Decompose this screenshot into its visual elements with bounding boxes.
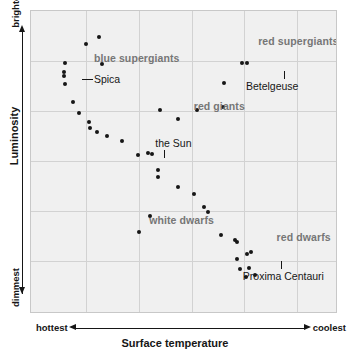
star-point xyxy=(158,108,162,112)
star-point xyxy=(202,205,206,209)
x-axis-arrow-right-icon xyxy=(304,324,311,330)
star-point xyxy=(63,61,67,65)
region-label-white-dwarfs: white dwarfs xyxy=(149,214,214,226)
y-axis: brightest dimmest Luminosity xyxy=(0,10,30,313)
y-axis-label-dimmest: dimmest xyxy=(10,259,21,317)
region-label-red-supergiants: red supergiants xyxy=(258,35,337,47)
x-axis-label-hottest: hottest xyxy=(36,322,68,333)
region-label-red-giants: red giants xyxy=(194,100,245,112)
star-point xyxy=(249,250,253,254)
star-point xyxy=(95,130,99,134)
leader-line-betelgeuse xyxy=(284,71,285,79)
x-axis-title: Surface temperature xyxy=(0,337,350,349)
y-axis-title: Luminosity xyxy=(8,76,20,196)
star-label-betelgeuse: Betelgeuse xyxy=(246,80,299,92)
star-point xyxy=(88,126,92,130)
gridline-horizontal-0 xyxy=(31,61,336,62)
region-label-red-dwarfs: red dwarfs xyxy=(277,231,331,243)
star-point xyxy=(84,42,88,46)
star-point xyxy=(136,153,140,157)
star-point xyxy=(222,81,226,85)
star-point xyxy=(192,192,196,196)
region-label-blue-supergiants: blue supergiants xyxy=(94,52,180,64)
gridline-horizontal-4 xyxy=(31,261,336,262)
star-point xyxy=(235,240,239,244)
x-axis: hottest coolest Surface temperature xyxy=(0,313,350,351)
star-point xyxy=(240,61,244,65)
star-point xyxy=(62,74,66,78)
star-point xyxy=(156,175,160,179)
x-axis-label-coolest: coolest xyxy=(313,322,346,333)
star-point xyxy=(137,230,141,234)
star-point xyxy=(238,267,242,271)
leader-line-spica xyxy=(82,79,93,80)
star-point xyxy=(176,185,180,189)
y-axis-label-brightest: brightest xyxy=(10,0,21,38)
star-point xyxy=(156,168,160,172)
plot-area: blue supergiantsred supergiantsred giant… xyxy=(30,10,337,313)
star-point xyxy=(219,233,223,237)
x-axis-arrow-left-icon xyxy=(69,324,76,330)
star-point xyxy=(150,152,154,156)
hr-diagram-figure: brightest dimmest Luminosity blue superg… xyxy=(0,0,350,351)
star-point xyxy=(63,82,67,86)
star-point xyxy=(245,61,249,65)
star-point xyxy=(120,139,124,143)
star-point xyxy=(97,35,101,39)
star-point xyxy=(77,111,81,115)
star-point xyxy=(235,257,239,261)
star-label-proxima-centauri: Proxima Centauri xyxy=(243,270,324,282)
leader-line-proxima-centauri xyxy=(281,261,282,269)
star-point xyxy=(87,120,91,124)
gridline-horizontal-2 xyxy=(31,161,336,162)
leader-line-the-sun xyxy=(164,150,165,158)
star-label-the-sun: the Sun xyxy=(155,137,191,149)
star-label-spica: Spica xyxy=(94,73,120,85)
gridline-horizontal-3 xyxy=(31,211,336,212)
y-axis-arrow-line xyxy=(22,32,23,294)
star-point xyxy=(71,100,75,104)
star-point xyxy=(105,134,109,138)
x-axis-arrow-line xyxy=(76,328,304,329)
star-point xyxy=(176,117,180,121)
